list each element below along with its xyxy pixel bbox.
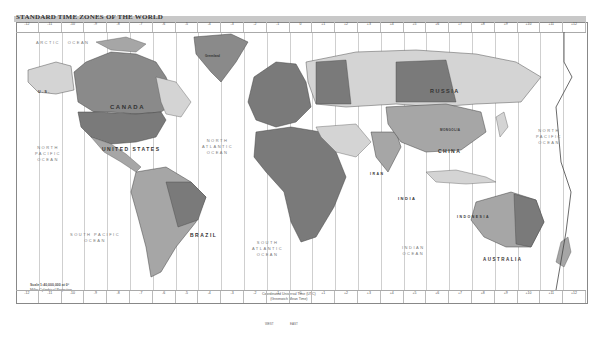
label-mongolia: MONGOLIA [440,128,461,132]
time-zone-cell: +4 [381,291,404,303]
time-zone-cell: -5 [176,291,199,303]
landmass-usa [78,112,166,144]
time-zone-cell: -9 [84,22,107,32]
landmass-alaska [28,62,74,94]
label-arctic-ocean: ARCTIC OCEAN [36,40,89,46]
label-south-pacific: SOUTH PACIFIC OCEAN [70,232,120,244]
time-zone-cell: +6 [426,291,449,303]
label-brazil: BRAZIL [190,232,217,238]
time-zone-cell: 0 [290,22,313,32]
landmass-japan [496,112,508,137]
landmass-arctic-islands [96,37,146,52]
time-zone-cell: +5 [404,291,427,303]
time-zone-cell: +8 [472,22,495,32]
label-north-pacific-west: NORTH PACIFIC OCEAN [35,145,61,163]
label-south-atlantic: SOUTH ATLANTIC OCEAN [252,240,283,258]
time-zone-cell: +12 [563,291,586,303]
time-zone-cell: -3 [221,22,244,32]
label-united-states: UNITED STATES [102,146,160,152]
landmass-indonesia [426,170,496,184]
footer-west: WEST [265,322,274,326]
time-zone-cell: +9 [495,291,518,303]
time-zone-cell: -9 [84,291,107,303]
time-zone-cell: +6 [426,22,449,32]
time-zone-cell: -3 [221,291,244,303]
time-zone-cell: +7 [449,22,472,32]
time-zone-cell: +12 [563,22,586,32]
landmass-europe [248,62,311,127]
map-title: STANDARD TIME ZONES OF THE WORLD [16,13,163,21]
label-china: CHINA [438,148,461,154]
landmass-greenland [194,34,248,82]
landmass-china [386,104,486,152]
time-zone-cell: -11 [39,22,62,32]
time-zone-cell: -1 [267,291,290,303]
landmass-australia-east [514,194,544,247]
time-zone-cell: -4 [198,22,221,32]
time-zone-cell: -1 [267,22,290,32]
time-zone-cell: +2 [335,22,358,32]
time-zone-cell: -6 [153,22,176,32]
footer-east: EAST [290,322,298,326]
landmass-india [371,132,401,172]
time-zone-cell: -4 [198,291,221,303]
time-zone-cell: -11 [39,291,62,303]
time-zone-cell: 0 [290,291,313,303]
label-us-alaska: U.S. [38,90,51,94]
time-zone-cell: -2 [244,291,267,303]
label-iran: IRAN [370,172,385,176]
time-zone-cell: -8 [107,22,130,32]
time-zone-cell: -6 [153,291,176,303]
time-zone-cell: -12 [16,22,39,32]
label-australia: AUSTRALIA [483,257,523,262]
legend-scale: Scale 1:40,000,000 at 0° [30,283,69,288]
time-zone-cell: +4 [381,22,404,32]
label-indonesia: INDONESIA [457,215,490,219]
label-russia: RUSSIA [430,88,460,94]
label-greenland: Greenland [205,54,220,58]
time-zone-cell: -2 [244,22,267,32]
time-zone-cell: -12 [16,291,39,303]
time-zone-cell: +1 [312,22,335,32]
time-zone-cell: -10 [62,291,85,303]
time-zone-cell: -10 [62,22,85,32]
label-india: INDIA [398,196,416,201]
time-zone-cell: -8 [107,291,130,303]
time-zone-strip-bottom: -12-11-10-9-8-7-6-5-4-3-2-10+1+2+3+4+5+6… [16,290,586,303]
time-zone-cell: +10 [518,22,541,32]
label-north-pacific-east: NORTH PACIFIC OCEAN [536,128,562,146]
time-zone-cell: +2 [335,291,358,303]
label-indian-ocean: INDIAN OCEAN [402,245,425,257]
time-zone-cell: +8 [472,291,495,303]
time-zone-cell: +9 [495,22,518,32]
time-zone-cell: +5 [404,22,427,32]
landmass-new-zealand [556,237,571,267]
label-north-atlantic: NORTH ATLANTIC OCEAN [202,138,233,156]
time-zone-cell: +10 [518,291,541,303]
time-zone-cell: +11 [540,22,563,32]
world-map [16,32,586,290]
time-zone-cell: -7 [130,22,153,32]
label-canada: CANADA [110,104,145,110]
time-zone-cell: +11 [540,291,563,303]
time-zone-cell: +3 [358,291,381,303]
time-zone-cell: -5 [176,22,199,32]
time-zone-cell: +3 [358,22,381,32]
time-zone-cell: -7 [130,291,153,303]
time-zone-cell: +1 [312,291,335,303]
time-zone-cell: +7 [449,291,472,303]
